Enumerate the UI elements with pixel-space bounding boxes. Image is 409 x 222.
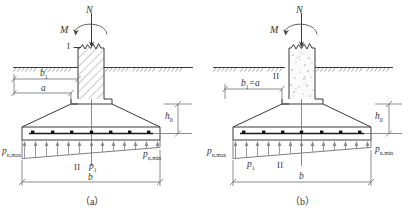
figure-a: N M I b1 a h0 pn,max pn,min II p1 b （a） xyxy=(0,0,204,222)
label-moment-b: M xyxy=(270,25,278,35)
downward-arrow-icon xyxy=(89,13,94,48)
label-b1-eq-a-b: b1=a xyxy=(241,79,260,91)
section-marker-bottom-a: II xyxy=(74,163,81,172)
downward-arrow-icon xyxy=(299,13,304,48)
label-p-n-max-a: pn,max xyxy=(2,147,21,159)
rebar-layer xyxy=(29,131,153,134)
label-p1-b: p1 xyxy=(247,160,255,172)
figure-pair: N M I b1 a h0 pn,max pn,min II p1 b （a） xyxy=(0,0,409,222)
label-axial-load-b: N xyxy=(296,5,303,15)
label-axial-load-a: N xyxy=(86,5,93,15)
caption-b: （b） xyxy=(290,197,315,207)
label-p-n-min-b: pn,min xyxy=(375,145,393,157)
label-p-n-min-a: pn,min xyxy=(143,150,161,162)
column-section xyxy=(78,44,104,100)
label-base-width-b: b xyxy=(299,172,304,182)
pressure-diagram xyxy=(22,140,160,159)
label-b1-a: b1 xyxy=(40,69,48,81)
label-moment-a: M xyxy=(60,25,68,35)
dimension-h0 xyxy=(364,101,402,137)
label-h0-a: h0 xyxy=(165,112,173,124)
column-section xyxy=(289,44,315,100)
section-marker-top-b: II xyxy=(273,72,280,81)
curved-moment-arrow-icon xyxy=(283,24,317,35)
label-base-width-a: b xyxy=(88,173,93,183)
label-h0-b: h0 xyxy=(375,112,383,124)
section-marker-top-a: I xyxy=(67,42,70,51)
pressure-diagram xyxy=(233,140,371,159)
figure-b: N M II b1=a h0 pn,max pn,min p1 II b （b） xyxy=(205,0,409,222)
section-marker-bottom-b: II xyxy=(277,161,284,170)
label-p-n-max-b: pn,max xyxy=(207,147,226,159)
label-a-a: a xyxy=(41,84,46,94)
curved-moment-arrow-icon xyxy=(73,24,107,35)
caption-a: （a） xyxy=(80,197,104,207)
figure-a-drawing xyxy=(0,0,204,222)
rebar-layer xyxy=(240,131,364,134)
